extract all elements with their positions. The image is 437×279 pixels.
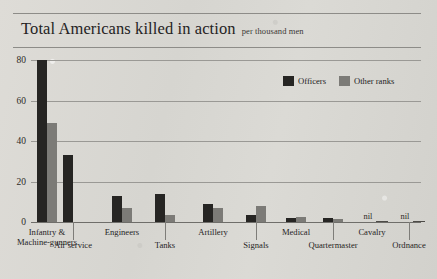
gridline-40	[31, 141, 421, 142]
gridline-20	[31, 182, 421, 183]
leader-line-9	[409, 222, 410, 240]
y-tick-label-60: 60	[17, 96, 27, 106]
y-tick-label-80: 80	[17, 55, 27, 65]
nil-annotation-cavalry: nil	[364, 212, 373, 221]
leader-line-5	[256, 222, 257, 240]
x-label-artillery: Artillery	[198, 227, 228, 237]
header-rule-bottom	[13, 47, 421, 48]
bar-other-ranks-4[interactable]	[213, 208, 223, 222]
nil-dash-ordnance	[413, 221, 425, 222]
x-label-quartermaster: Quartermaster	[308, 240, 357, 250]
x-label-line1: Infantry &	[17, 227, 77, 237]
chart-figure: Total Americans killed in action per tho…	[0, 0, 437, 279]
y-tick-label-40: 40	[17, 136, 27, 146]
bar-other-ranks-5[interactable]	[256, 206, 266, 222]
bar-officers-1[interactable]	[63, 155, 73, 222]
plot-area: 020406080	[31, 60, 421, 222]
x-label-tanks: Tanks	[155, 240, 175, 250]
bar-officers-4[interactable]	[203, 204, 213, 222]
bar-group-engineers[interactable]	[112, 196, 132, 222]
bar-group-tanks[interactable]	[155, 194, 175, 222]
leader-line-7	[333, 222, 334, 240]
x-label-engineers: Engineers	[105, 227, 139, 237]
x-label-signals: Signals	[243, 240, 268, 250]
chart-subtitle: per thousand men	[242, 26, 304, 36]
x-label-air-service: Air service	[54, 240, 92, 250]
y-tick-label-20: 20	[17, 177, 27, 187]
bar-group-artillery[interactable]	[203, 204, 223, 222]
bar-officers-0[interactable]	[37, 60, 47, 222]
nil-dash-cavalry	[376, 221, 388, 222]
leader-line-1	[73, 222, 74, 240]
bar-officers-3[interactable]	[155, 194, 165, 222]
x-label-cavalry: Cavalry	[358, 227, 385, 237]
bar-group-signals[interactable]	[246, 206, 266, 222]
header-rule-top	[13, 13, 421, 14]
x-label-ordnance: Ordnance	[392, 240, 425, 250]
x-axis-baseline	[31, 222, 421, 223]
chart-title: Total Americans killed in action	[21, 19, 236, 39]
leader-line-3	[165, 222, 166, 240]
bar-officers-5[interactable]	[246, 215, 256, 222]
bar-other-ranks-0[interactable]	[47, 123, 57, 222]
x-label-medical: Medical	[282, 227, 310, 237]
y-tick-label-0: 0	[21, 217, 26, 227]
nil-annotation-ordnance: nil	[401, 212, 410, 221]
bar-officers-2[interactable]	[112, 196, 122, 222]
gridline-60	[31, 101, 421, 102]
bar-other-ranks-2[interactable]	[122, 208, 132, 222]
bar-group-infantry-machine-gunners[interactable]	[37, 60, 57, 222]
bar-group-air-service[interactable]	[63, 155, 83, 222]
gridline-80	[31, 60, 421, 61]
chart-title-block: Total Americans killed in action per tho…	[21, 19, 304, 39]
bar-other-ranks-3[interactable]	[165, 215, 175, 222]
